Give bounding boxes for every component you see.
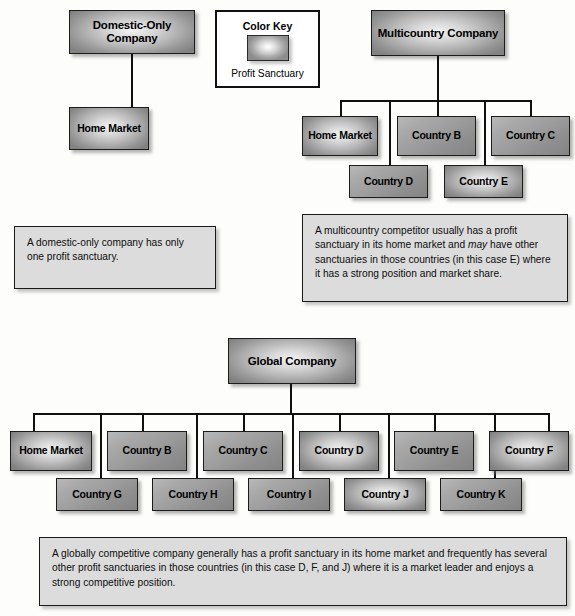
connector-multicountry-drop-e (484, 100, 486, 165)
connector-global-drop-i (292, 413, 294, 478)
node-global-country-k: Country K (440, 478, 522, 511)
connector-multicountry-drop-d (389, 100, 391, 165)
connector-multicountry-drop-c (530, 100, 532, 116)
connector-global-bus (33, 413, 548, 415)
node-multicountry-country-e: Country E (444, 165, 523, 198)
node-domestic-home-market: Home Market (69, 107, 149, 150)
node-global-country-h: Country H (152, 478, 234, 511)
node-global-country-f: Country F (489, 431, 569, 471)
connector-multicountry-root-stem (437, 56, 439, 101)
color-key-title: Color Key (243, 20, 293, 32)
color-key-panel: Color Key Profit Sanctuary (215, 10, 320, 88)
node-global-country-e: Country E (394, 431, 474, 471)
connector-global-drop-f (548, 413, 550, 431)
connector-multicountry-bus (340, 100, 532, 102)
connector-global-drop-c (243, 413, 245, 431)
node-global-country-j: Country J (344, 478, 426, 511)
node-global-company: Global Company (228, 338, 356, 384)
caption-multicountry: A multicountry competitor usually has a … (302, 214, 568, 302)
node-multicountry-home-market: Home Market (302, 116, 378, 156)
caption-global: A globally competitive company generally… (39, 537, 567, 606)
connector-global-drop-d (339, 413, 341, 431)
color-key-label: Profit Sanctuary (231, 68, 303, 79)
connector-global-drop-e (434, 413, 436, 431)
connector-global-root-stem (290, 384, 292, 415)
caption-domestic: A domestic-only company has only one pro… (14, 226, 216, 289)
connector-multicountry-drop-b (437, 100, 439, 116)
node-global-country-g: Country G (56, 478, 138, 511)
connector-global-drop-j (388, 413, 390, 478)
connector-global-drop-g (100, 413, 102, 478)
connector-domestic-root-to-home (131, 54, 133, 107)
profit-sanctuary-swatch (247, 35, 289, 61)
connector-global-drop-b (142, 413, 144, 431)
node-multicountry-country-d: Country D (349, 165, 428, 198)
node-global-country-b: Country B (107, 431, 187, 471)
node-multicountry-country-b: Country B (397, 116, 476, 156)
node-global-country-i: Country I (248, 478, 330, 511)
node-multicountry-company: Multicountry Company (371, 10, 505, 56)
node-global-country-c: Country C (203, 431, 283, 471)
connector-multicountry-drop-home (340, 100, 342, 116)
node-domestic-only-company: Domestic-Only Company (69, 10, 195, 54)
node-multicountry-country-c: Country C (491, 116, 570, 156)
connector-global-drop-h (196, 413, 198, 478)
node-global-country-d: Country D (299, 431, 379, 471)
diagram-canvas: Domestic-Only Company Home Market A dome… (0, 0, 575, 616)
node-global-home-market: Home Market (10, 431, 92, 471)
caption-multicountry-emphasis: may (468, 239, 487, 250)
connector-global-drop-home (33, 413, 35, 431)
